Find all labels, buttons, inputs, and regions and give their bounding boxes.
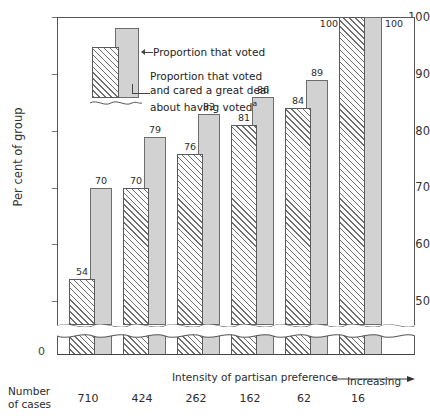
y-tick-label-0: 0 [38,345,45,358]
stub-bar-hatch-16 [339,333,365,355]
bar-hatch-424 [123,188,149,325]
bar-value-hatch-262: 76 [170,142,210,152]
legend: Proportion that voted Proportion that vo… [68,22,368,114]
legend-footnote-marker: a [252,99,257,108]
legend-leader-line-voted-and-cared [132,93,150,94]
chart-figure: 100 90 80 70 60 50 Per cent of group 0 7… [0,0,430,420]
stub-bar-hatch-262 [177,333,203,355]
legend-label-voted-and-cared: Proportion that voted and cared a great … [150,70,269,114]
case-value-16: 16 [333,392,383,405]
legend-label-voted: Proportion that voted [153,46,265,60]
bar-value-gray-16: 100 [385,19,413,29]
bar-value-hatch-710: 54 [62,267,102,277]
case-value-710: 710 [63,392,113,405]
cases-row-title: Number of cases [8,385,66,410]
case-value-424: 424 [117,392,167,405]
legend-label-line1: Proportion that voted [150,70,262,82]
cases-title-line2: of cases [8,398,51,410]
y-axis-title: Per cent of group [11,97,25,217]
case-value-262: 262 [171,392,221,405]
bar-hatch-262 [177,154,203,325]
increasing-label: Increasing [333,375,415,387]
bar-value-hatch-162: 81 [224,113,264,123]
bar-value-gray-710: 70 [81,176,121,186]
stub-bar-hatch-424 [123,333,149,355]
legend-swatch-voted-and-cared [92,47,119,98]
axis-break-stub-panel [57,333,415,355]
bar-hatch-62 [285,108,311,325]
x-axis-title: Intensity of partisan preference [172,371,338,383]
cases-title-line1: Number [8,385,50,397]
stub-bar-hatch-62 [285,333,311,355]
case-value-162: 162 [225,392,275,405]
bar-value-hatch-424: 70 [116,176,156,186]
stub-bar-hatch-162 [231,333,257,355]
bar-hatch-710 [69,279,95,325]
stub-bar-hatch-710 [69,333,95,355]
case-value-62: 62 [279,392,329,405]
legend-label-line3: about having voted [150,101,252,113]
legend-label-line2: and cared a great deal [150,84,269,96]
legend-arrow-icon [141,49,145,55]
bar-hatch-162 [231,125,257,325]
legend-break-wave-icon [90,93,142,103]
bar-value-gray-424: 79 [135,125,175,135]
